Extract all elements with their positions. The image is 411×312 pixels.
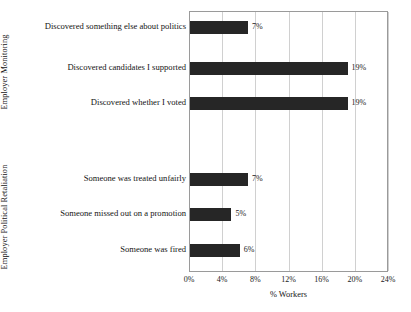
gridline bbox=[289, 12, 290, 271]
gridline bbox=[222, 12, 223, 271]
category-label: Discovered candidates I supported bbox=[4, 61, 189, 74]
category-label: Someone missed out on a promotion bbox=[4, 207, 189, 220]
category-label: Discovered something else about politics bbox=[4, 20, 189, 33]
bar bbox=[190, 244, 240, 257]
bar bbox=[190, 173, 248, 186]
gridline bbox=[355, 12, 356, 271]
category-label: Someone was fired bbox=[4, 243, 189, 256]
gridline bbox=[255, 12, 256, 271]
bar-row: 6% bbox=[190, 244, 389, 257]
x-axis-title: % Workers bbox=[189, 290, 388, 299]
group-label: Employer Political Retaliation bbox=[0, 165, 9, 270]
bar-value-label: 6% bbox=[244, 243, 255, 256]
bar-value-label: 5% bbox=[235, 207, 246, 220]
x-tick-label: 12% bbox=[274, 275, 304, 284]
x-tick-label: 20% bbox=[340, 275, 370, 284]
bar-value-label: 19% bbox=[352, 96, 367, 109]
x-tick-label: 16% bbox=[307, 275, 337, 284]
bar-value-label: 19% bbox=[352, 61, 367, 74]
bar-row: 7% bbox=[190, 173, 389, 186]
x-tick-label: 4% bbox=[207, 275, 237, 284]
bar-row: 19% bbox=[190, 62, 389, 75]
bar bbox=[190, 62, 348, 75]
chart-page: 7%19%19%7%5%6% Discovered something else… bbox=[0, 0, 411, 312]
category-label: Someone was treated unfairly bbox=[4, 172, 189, 185]
bar bbox=[190, 208, 231, 221]
category-label: Discovered whether I voted bbox=[4, 96, 189, 109]
plot-area: 7%19%19%7%5%6% bbox=[189, 11, 388, 272]
group-label: Employer Monitoring bbox=[0, 34, 9, 109]
bar-row: 5% bbox=[190, 208, 389, 221]
bar-value-label: 7% bbox=[252, 20, 263, 33]
x-tick-label: 24% bbox=[373, 275, 403, 284]
bar-row: 7% bbox=[190, 21, 389, 34]
bar-value-label: 7% bbox=[252, 172, 263, 185]
x-tick-label: 8% bbox=[240, 275, 270, 284]
bar bbox=[190, 97, 348, 110]
gridline bbox=[388, 12, 389, 271]
bar-row: 19% bbox=[190, 97, 389, 110]
x-tick-label: 0% bbox=[174, 275, 204, 284]
gridline bbox=[322, 12, 323, 271]
bar bbox=[190, 21, 248, 34]
